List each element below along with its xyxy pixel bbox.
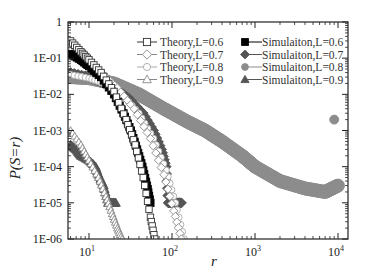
legend-marker-icon [143, 38, 150, 45]
data-point [146, 206, 152, 212]
legend-marker-icon [242, 64, 249, 71]
y-tick-label: 1E-04 [33, 160, 62, 174]
chart: 11E-011E-021E-031E-041E-051E-06 10110210… [0, 0, 369, 273]
legend-label-simulation: Simulaiton,L=0.9 [262, 74, 343, 87]
data-point [137, 161, 143, 167]
legend-marker-icon [241, 75, 249, 82]
legend-marker-icon [143, 63, 150, 70]
y-tick-label: 1E-01 [33, 51, 62, 65]
legend-label-theory: Theory,L=0.9 [160, 74, 223, 87]
data-point [143, 190, 149, 196]
y-tick-label: 1E-05 [33, 196, 62, 210]
legend-label-simulation: Simulaiton,L=0.7 [262, 49, 343, 62]
data-point [132, 142, 138, 148]
y-tick-label: 1E-06 [33, 232, 62, 246]
y-tick-label: 1 [56, 15, 62, 29]
outlier-point [330, 115, 339, 124]
data-point [140, 174, 146, 180]
data-point [332, 179, 345, 192]
legend-label-simulation: Simulaiton,L=0.6 [262, 36, 343, 49]
y-tick-label: 1E-03 [33, 124, 62, 138]
legend-marker-icon [142, 50, 151, 59]
data-point [138, 168, 144, 174]
data-point [134, 148, 140, 154]
legend-marker-icon [242, 39, 249, 46]
legend-label-simulation: Simulaiton,L=0.8 [262, 61, 343, 74]
legend-marker-icon [143, 75, 152, 83]
x-axis-title: r [211, 253, 217, 269]
x-tick-label: 104 [328, 244, 344, 259]
legend-label-theory: Theory,L=0.6 [160, 36, 223, 49]
legend: Theory,L=0.6Simulaiton,L=0.6Theory,L=0.7… [137, 36, 343, 87]
y-tick-label: 1E-02 [33, 87, 62, 101]
legend-label-theory: Theory,L=0.7 [160, 49, 223, 62]
series-theory-l-0-9 [67, 127, 126, 242]
legend-marker-icon [241, 50, 250, 59]
data-point [141, 182, 147, 188]
legend-label-theory: Theory,L=0.8 [160, 61, 223, 74]
x-tick-label: 103 [245, 244, 261, 259]
x-tick-label: 102 [162, 244, 178, 259]
x-tick-label: 101 [79, 244, 95, 259]
data-point [144, 198, 150, 204]
data-point [135, 155, 141, 161]
y-tick-labels: 11E-011E-021E-031E-041E-051E-06 [33, 15, 62, 246]
y-axis-title: P(S=r) [7, 137, 24, 181]
